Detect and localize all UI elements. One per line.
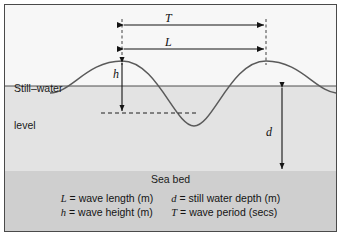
wave-curve — [50, 61, 337, 126]
legend-text: = still water depth (m) — [177, 192, 281, 204]
legend-item: L = wave length (m) — [61, 192, 154, 204]
diagram-frame: Still–water level Sea bed T L h d L = wa… — [4, 4, 337, 232]
legend-text: = wave height (m) — [66, 206, 153, 218]
legend-column-left: L = wave length (m) h = wave height (m) — [61, 192, 154, 218]
legend-text: = wave period (secs) — [177, 206, 277, 218]
wave-diagram-figure: Still–water level Sea bed T L h d L = wa… — [0, 0, 342, 239]
symbol-water-depth: d — [266, 125, 272, 140]
legend: L = wave length (m) h = wave height (m) … — [5, 192, 336, 218]
legend-text: = wave length (m) — [67, 192, 154, 204]
symbol-wave-length: L — [165, 35, 172, 50]
still-water-level-label: Still–water level — [14, 57, 62, 156]
symbol-wave-period: T — [165, 11, 172, 26]
legend-item: d = still water depth (m) — [171, 192, 280, 204]
still-water-label-line1: Still–water — [14, 82, 62, 94]
sea-bed-label: Sea bed — [5, 173, 336, 185]
legend-item: T = wave period (secs) — [171, 206, 280, 218]
still-water-label-line2: level — [14, 119, 62, 131]
symbol-wave-height: h — [113, 67, 119, 82]
legend-item: h = wave height (m) — [61, 206, 154, 218]
legend-column-right: d = still water depth (m) T = wave perio… — [171, 192, 280, 218]
